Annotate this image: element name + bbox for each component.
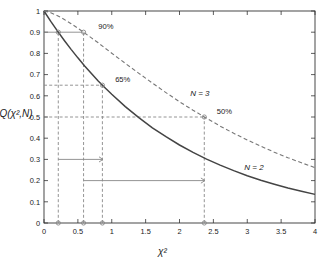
x-tick-label: 2 (177, 227, 181, 236)
y-tick-label: 0.9 (30, 28, 40, 37)
x-tick-label: 1.5 (140, 227, 150, 236)
y-tick-label: 0.8 (30, 49, 40, 58)
chart-figure: 00.511.522.533.5400.10.20.30.40.50.60.70… (0, 0, 328, 261)
y-tick-label: 0.3 (30, 155, 40, 164)
y-tick-label: 0.7 (30, 70, 40, 79)
y-tick-label: 0.1 (30, 198, 40, 207)
curve-label-n3: N = 3 (190, 89, 210, 98)
x-tick-label: 4 (313, 227, 317, 236)
x-tick-label: 0.5 (73, 227, 83, 236)
y-tick-label: 0.2 (30, 176, 40, 185)
annotation-label-90pct: 90% (98, 22, 113, 31)
annotation-label-50pct: 50% (217, 107, 232, 116)
curve-label-n2: N = 2 (244, 163, 264, 172)
x-axis-label: χ² (157, 246, 167, 257)
y-axis-label: Q(χ²,N) (0, 108, 33, 119)
curve-n2 (44, 11, 315, 194)
y-tick-label: 0.6 (30, 92, 40, 101)
chart-canvas: 00.511.522.533.5400.10.20.30.40.50.60.70… (0, 0, 328, 261)
x-tick-label: 1 (110, 227, 114, 236)
x-tick-label: 2.5 (208, 227, 218, 236)
x-tick-label: 3.5 (276, 227, 286, 236)
x-tick-label: 3 (245, 227, 249, 236)
annotation-label-65pct: 65% (115, 75, 130, 84)
y-tick-label: 1 (36, 7, 40, 16)
x-tick-label: 0 (42, 227, 46, 236)
y-tick-label: 0.4 (30, 134, 40, 143)
y-tick-label: 0 (36, 219, 40, 228)
chart-svg: 00.511.522.533.5400.10.20.30.40.50.60.70… (0, 0, 328, 261)
y-axis-label-group: Q(χ²,N) (0, 108, 33, 119)
